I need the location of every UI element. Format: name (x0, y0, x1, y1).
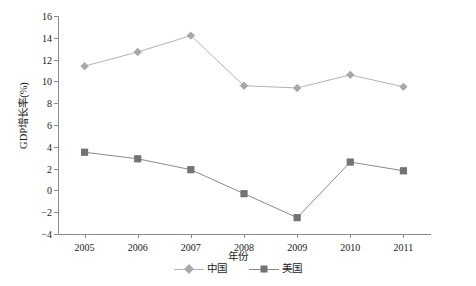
y-tick-label: 8 (47, 98, 52, 109)
data-point (81, 149, 88, 156)
y-axis-title: GDP增长率(%) (15, 56, 30, 176)
data-point (399, 83, 407, 91)
data-point (294, 214, 301, 221)
gdp-growth-line-chart: GDP增长率(%) 1614121086420−2−4 200520062007… (0, 0, 476, 286)
diamond-marker-icon (184, 264, 194, 274)
data-point (134, 48, 142, 56)
y-tick-label: 0 (47, 185, 52, 196)
series-line-中国 (85, 36, 404, 88)
data-point (293, 84, 301, 92)
legend-swatch-中国 (174, 264, 204, 274)
y-tick-label: 4 (47, 141, 52, 152)
y-tick-label: −4 (41, 229, 52, 240)
data-point (346, 71, 354, 79)
data-point (80, 62, 88, 70)
y-tick-label: 2 (47, 163, 52, 174)
series-line-美国 (85, 152, 404, 217)
y-tick-label: 6 (47, 120, 52, 131)
legend-item-中国[interactable]: 中国 (174, 264, 227, 275)
data-point (240, 190, 247, 197)
legend-label: 美国 (282, 264, 302, 275)
data-point (134, 155, 141, 162)
data-point (400, 167, 407, 174)
y-tick-label: −2 (41, 207, 52, 218)
plot-area: 1614121086420−2−4 2005200620072008200920… (58, 16, 430, 234)
x-axis-title: 年份 (0, 248, 476, 263)
square-marker-icon (261, 266, 268, 273)
data-point (187, 166, 194, 173)
data-point (347, 158, 354, 165)
y-tick-label: 12 (42, 54, 52, 65)
legend-item-美国[interactable]: 美国 (249, 264, 302, 275)
series-layer (58, 16, 430, 235)
y-tick-label: 16 (42, 11, 52, 22)
y-tick-label: 10 (42, 76, 52, 87)
chart-legend: 中国美国 (0, 264, 476, 275)
legend-label: 中国 (207, 264, 227, 275)
legend-swatch-美国 (249, 264, 279, 274)
y-tick-label: 14 (42, 32, 52, 43)
